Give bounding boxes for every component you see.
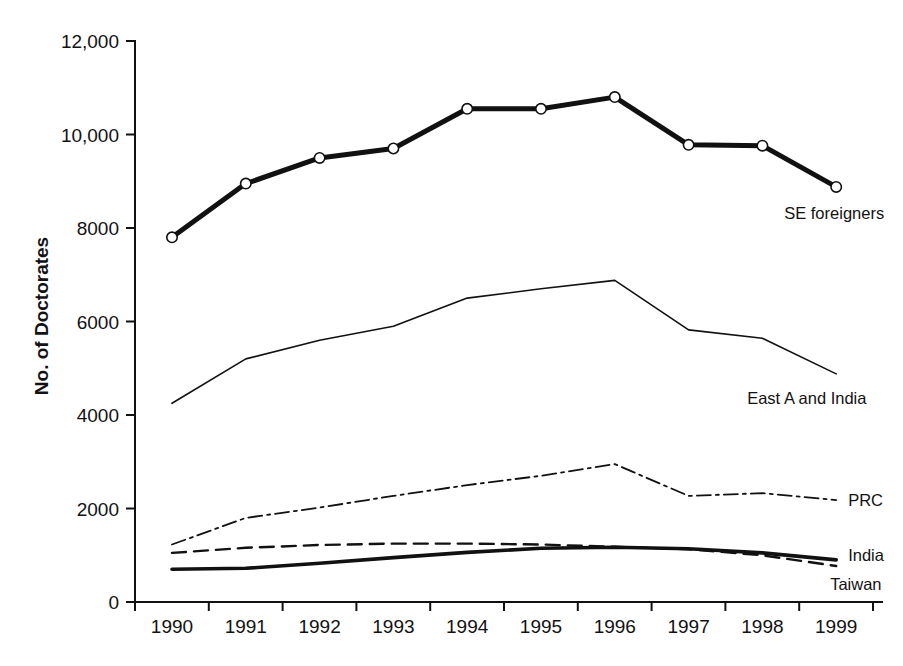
- data-point-marker: [241, 178, 251, 188]
- data-point-marker: [831, 182, 841, 192]
- series-label-india: India: [848, 546, 885, 564]
- y-tick-label: 4000: [77, 405, 119, 426]
- series-inline-labels: SE foreignersEast A and IndiaPRCIndiaTai…: [747, 204, 885, 593]
- y-tick-label: 8000: [77, 218, 119, 239]
- data-point-marker: [683, 140, 693, 150]
- y-axis-title: No. of Doctorates: [31, 237, 52, 395]
- x-tick-label: 1996: [594, 616, 636, 637]
- series-label-se-foreigners: SE foreigners: [784, 204, 884, 222]
- x-tick-label: 1993: [372, 616, 414, 637]
- y-tick-label: 12,000: [61, 31, 119, 52]
- x-axis-tick-labels: 1990199119921993199419951996199719981999: [151, 616, 857, 637]
- data-point-marker: [610, 92, 620, 102]
- data-point-marker: [462, 104, 472, 114]
- series-label-prc: PRC: [848, 491, 883, 509]
- x-tick-label: 1998: [741, 616, 783, 637]
- series-line: [172, 544, 836, 566]
- data-point-marker: [314, 153, 324, 163]
- y-tick-label: 0: [108, 592, 119, 613]
- y-tick-label: 2000: [77, 499, 119, 520]
- y-tick-label: 6000: [77, 312, 119, 333]
- x-tick-label: 1997: [667, 616, 709, 637]
- y-axis-ticks: [126, 41, 135, 602]
- x-tick-label: 1990: [151, 616, 193, 637]
- series-markers-layer: [167, 92, 842, 243]
- series-label-taiwan: Taiwan: [830, 575, 881, 593]
- data-point-marker: [536, 104, 546, 114]
- chart-container: 0200040006000800010,00012,000 1990199119…: [0, 0, 903, 666]
- x-axis-ticks: [135, 602, 873, 611]
- series-label-east-a-and-india: East A and India: [747, 389, 867, 407]
- series-line: [172, 280, 836, 403]
- series-line: [172, 464, 836, 544]
- data-point-marker: [757, 141, 767, 151]
- data-point-marker: [167, 232, 177, 242]
- axes: [135, 41, 882, 602]
- x-tick-label: 1994: [446, 616, 489, 637]
- series-line: [172, 547, 836, 569]
- x-tick-label: 1991: [225, 616, 267, 637]
- x-tick-label: 1999: [815, 616, 857, 637]
- series-line: [172, 97, 836, 237]
- data-point-marker: [388, 143, 398, 153]
- y-axis-title-text: No. of Doctorates: [31, 237, 52, 395]
- doctorates-line-chart: 0200040006000800010,00012,000 1990199119…: [0, 0, 903, 666]
- series-layer: [172, 97, 836, 569]
- y-axis-tick-labels: 0200040006000800010,00012,000: [61, 31, 119, 613]
- y-tick-label: 10,000: [61, 125, 119, 146]
- x-tick-label: 1995: [520, 616, 562, 637]
- x-tick-label: 1992: [298, 616, 340, 637]
